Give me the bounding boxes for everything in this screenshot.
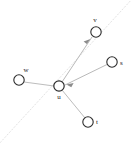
node-label-group: v s w u t bbox=[23, 16, 123, 126]
graph-figure: v s w u t bbox=[0, 0, 135, 145]
node-label-w: w bbox=[23, 66, 29, 74]
edge-group bbox=[24, 37, 108, 118]
node-label-v: v bbox=[93, 16, 97, 24]
edge-u-t bbox=[62, 90, 85, 118]
dotted-diagonal-guide-line bbox=[0, 0, 133, 145]
node-v[interactable] bbox=[91, 27, 101, 37]
edge-u-v bbox=[62, 37, 92, 82]
edge-w-u bbox=[24, 82, 54, 86]
node-s[interactable] bbox=[107, 57, 117, 67]
node-w[interactable] bbox=[14, 75, 24, 85]
node-u[interactable] bbox=[54, 81, 64, 91]
node-label-t: t bbox=[96, 118, 98, 126]
node-label-u: u bbox=[57, 93, 61, 101]
node-label-s: s bbox=[120, 59, 123, 67]
node-t[interactable] bbox=[83, 117, 93, 127]
arrowhead-group bbox=[66, 39, 90, 87]
graph-canvas: v s w u t bbox=[0, 0, 135, 145]
